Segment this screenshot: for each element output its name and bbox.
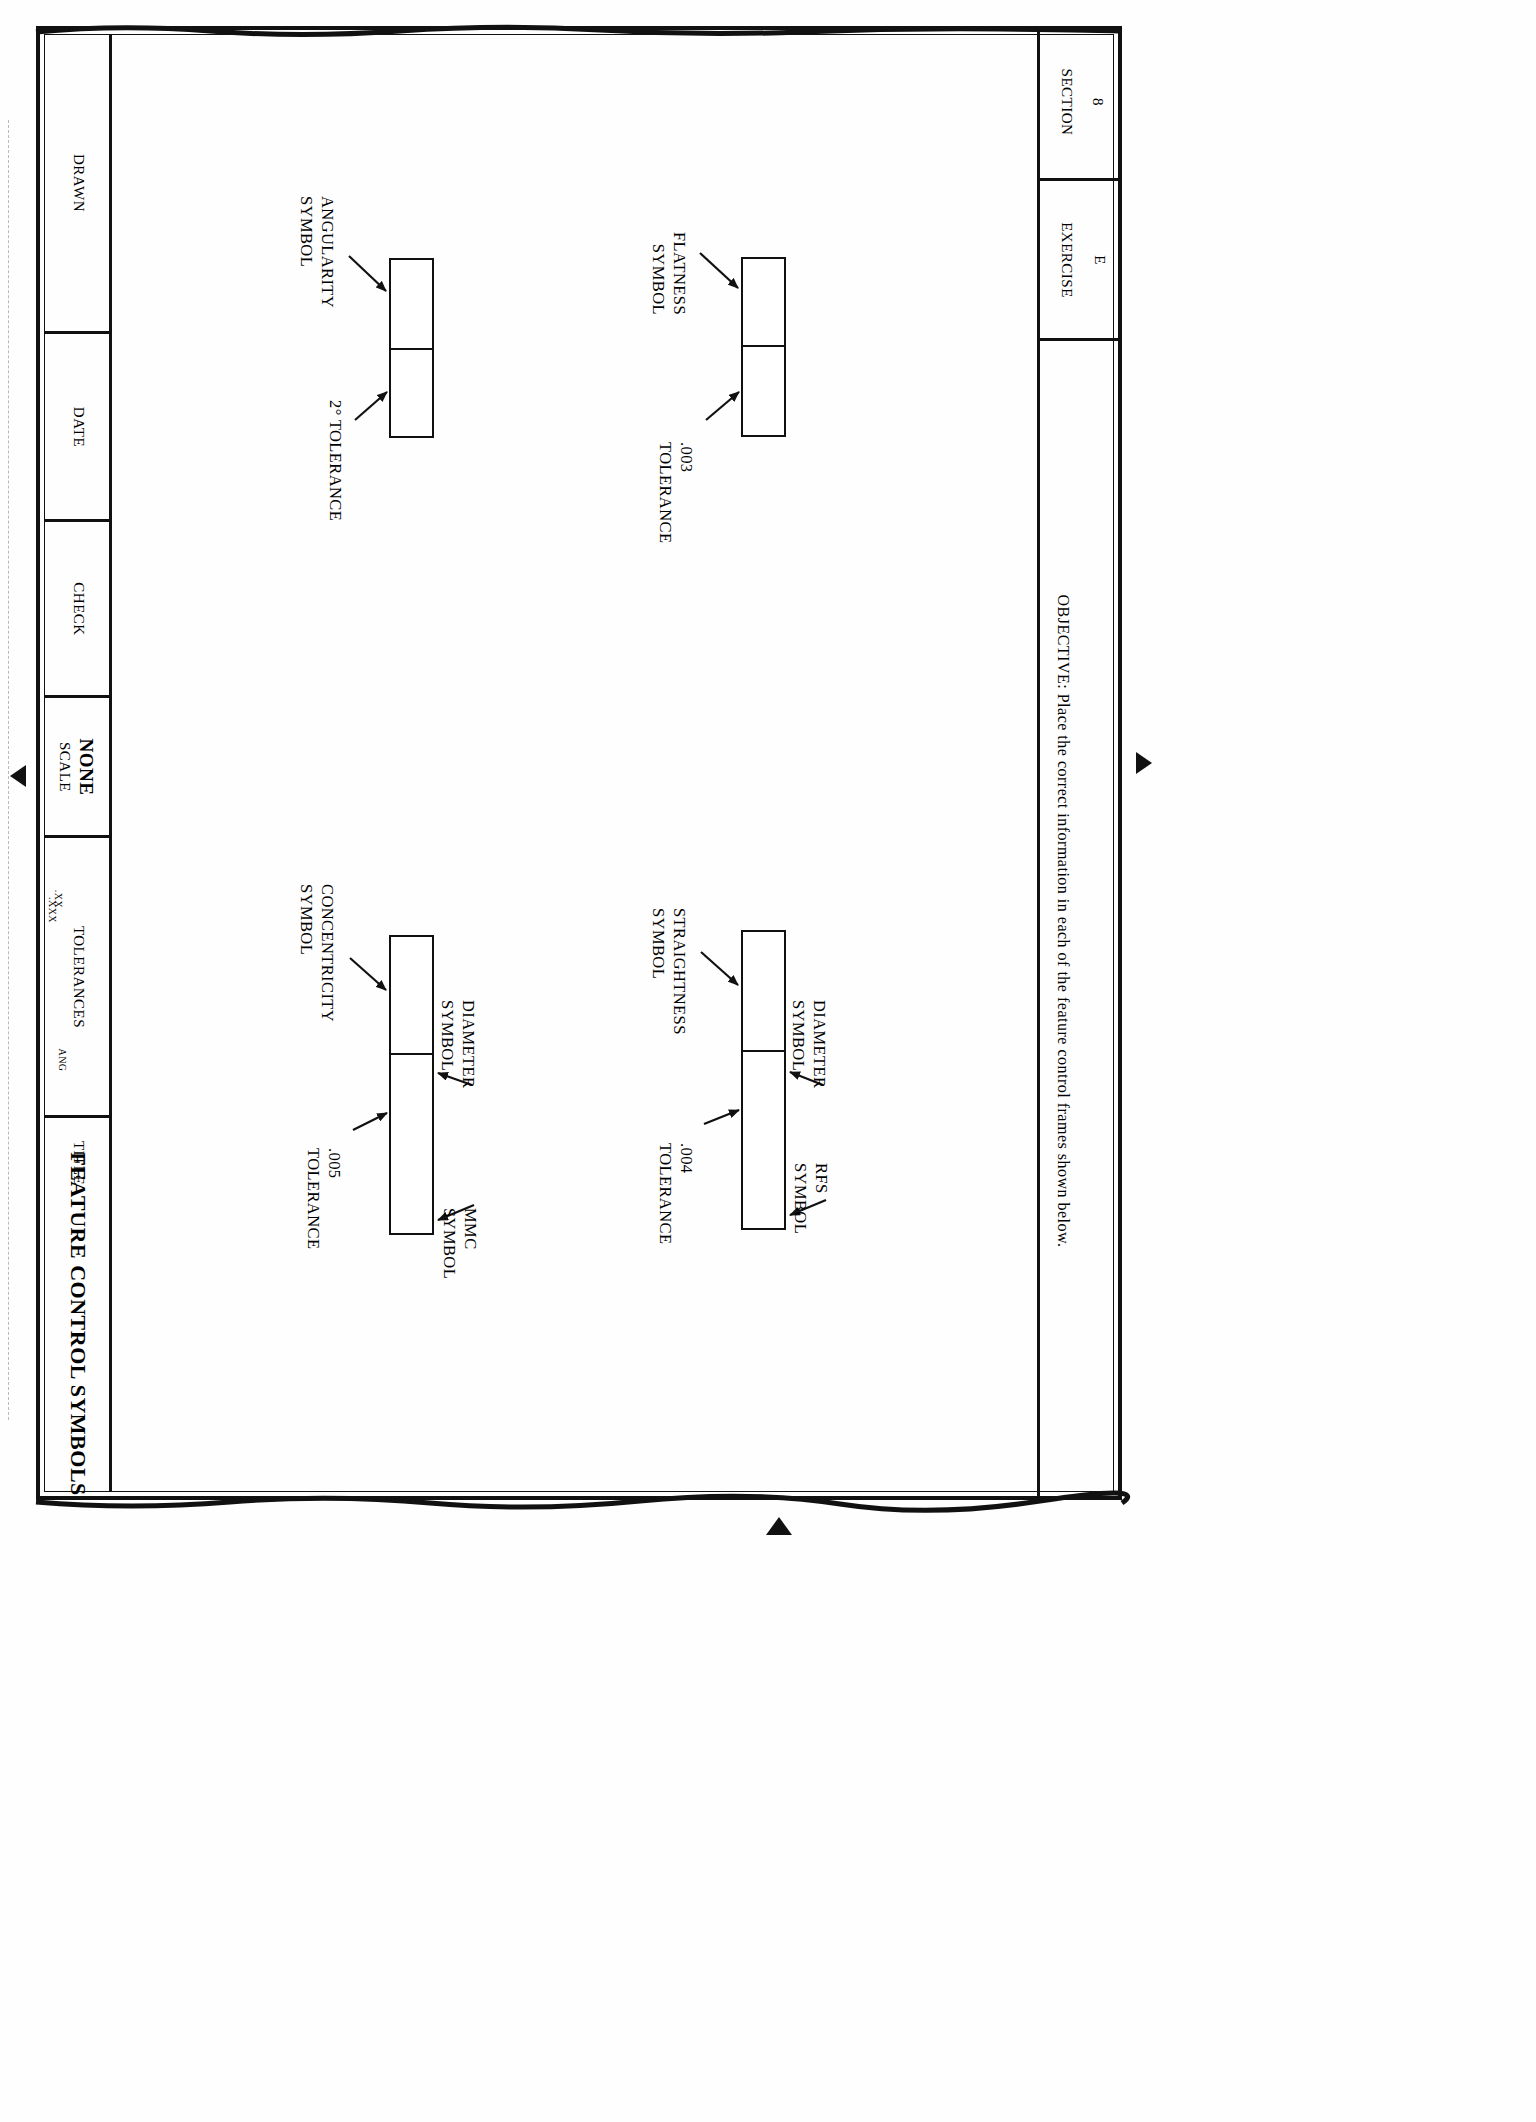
callout-line-2: SYMBOL [295, 884, 316, 1022]
title-block-title[interactable]: TITLE FEATURE CONTROL SYMBOLS [44, 1118, 112, 1492]
feature-control-frame-concentricity[interactable] [389, 935, 434, 1235]
section-value: 8 [1089, 98, 1106, 106]
header-objective: OBJECTIVE: Place the correct information… [1040, 341, 1122, 1500]
concentricity-mmc-callout: MMC SYMBOL [438, 1208, 481, 1279]
title-block: DRAWN DATE CHECK SCALE NONE TOLERANCES .… [44, 34, 112, 1492]
flatness-tolerance-callout: .003 TOLERANCE [654, 442, 697, 543]
drawn-label: DRAWN [70, 154, 87, 212]
date-label: DATE [70, 406, 87, 446]
callout-line-2: SYMBOL [787, 1000, 808, 1088]
tolerance-xxx-label: .XXX [47, 897, 58, 923]
feature-control-frame-straightness[interactable] [741, 930, 786, 1230]
exercise-label: EXERCISE [1058, 222, 1075, 298]
callout-line-1: .003 [676, 442, 697, 543]
concentricity-diameter-callout: DIAMETER SYMBOL [436, 1000, 479, 1088]
title-block-tolerances[interactable]: TOLERANCES .XX .XXX ANG [44, 838, 112, 1118]
drawing-inner-border [44, 34, 1114, 1492]
callout-line-2: SYMBOL [436, 1000, 457, 1088]
callout-line-2: TOLERANCE [302, 1148, 323, 1249]
concentricity-symbol-callout: CONCENTRICITY SYMBOL [295, 884, 338, 1022]
title-block-check[interactable]: CHECK [44, 522, 112, 698]
frame-divider [391, 1053, 432, 1055]
tolerances-label: TOLERANCES [70, 925, 87, 1027]
frame-divider [743, 345, 784, 347]
callout-line-1: ANGULARITY [317, 196, 338, 308]
angularity-tolerance-callout: 2° TOLERANCE [325, 400, 346, 521]
callout-line-2: TOLERANCE [654, 1143, 675, 1244]
callout-line-1: MMC [460, 1208, 481, 1279]
worksheet-page: DRAWN DATE CHECK SCALE NONE TOLERANCES .… [0, 0, 1536, 2122]
callout-line-1: STRAIGHTNESS [669, 908, 690, 1035]
check-label: CHECK [70, 582, 87, 635]
feature-control-frame-flatness[interactable] [741, 257, 786, 437]
title-block-date[interactable]: DATE [44, 334, 112, 522]
straightness-symbol-callout: STRAIGHTNESS SYMBOL [647, 908, 690, 1035]
callout-line-2: TOLERANCE [654, 442, 675, 543]
title-value: FEATURE CONTROL SYMBOLS [65, 1152, 91, 1496]
frame-divider [743, 1050, 784, 1052]
straightness-diameter-callout: DIAMETER SYMBOL [787, 1000, 830, 1088]
exercise-value: E [1091, 255, 1108, 265]
scale-label: SCALE [56, 741, 73, 791]
angularity-symbol-callout: ANGULARITY SYMBOL [295, 196, 338, 308]
callout-line-2: SYMBOL [789, 1163, 810, 1234]
center-mark-left-icon [10, 765, 26, 787]
title-block-drawn[interactable]: DRAWN [44, 34, 112, 334]
scale-value: NONE [75, 738, 97, 795]
tolerance-ang-label: ANG [56, 1048, 67, 1071]
callout-line-1: .004 [676, 1143, 697, 1244]
callout-line-1: .005 [324, 1148, 345, 1249]
header-block: SECTION 8 EXERCISE E OBJECTIVE: Place th… [1037, 26, 1122, 1500]
callout-line-1: 2° TOLERANCE [325, 400, 346, 521]
callout-line-2: SYMBOL [438, 1208, 459, 1279]
concentricity-tolerance-callout: .005 TOLERANCE [302, 1148, 345, 1249]
straightness-tolerance-callout: .004 TOLERANCE [654, 1143, 697, 1244]
callout-line-2: SYMBOL [647, 908, 668, 1035]
frame-divider [391, 348, 432, 350]
callout-line-2: SYMBOL [647, 232, 668, 315]
margin-guide [8, 120, 9, 1420]
callout-line-1: RFS [811, 1163, 832, 1234]
objective-text: OBJECTIVE: Place the correct information… [1054, 594, 1072, 1247]
header-exercise[interactable]: EXERCISE E [1040, 181, 1122, 341]
callout-line-1: DIAMETER [458, 1000, 479, 1088]
callout-line-2: SYMBOL [295, 196, 316, 308]
title-block-scale[interactable]: SCALE NONE [44, 698, 112, 838]
feature-control-frame-angularity[interactable] [389, 258, 434, 438]
center-mark-bottom-icon [766, 1517, 792, 1535]
center-mark-right-icon [1136, 752, 1152, 774]
section-label: SECTION [1058, 69, 1075, 136]
callout-line-1: DIAMETER [809, 1000, 830, 1088]
callout-line-1: FLATNESS [669, 232, 690, 315]
flatness-symbol-callout: FLATNESS SYMBOL [647, 232, 690, 315]
header-section[interactable]: SECTION 8 [1040, 26, 1122, 181]
callout-line-1: CONCENTRICITY [317, 884, 338, 1022]
straightness-rfs-callout: RFS SYMBOL [789, 1163, 832, 1234]
